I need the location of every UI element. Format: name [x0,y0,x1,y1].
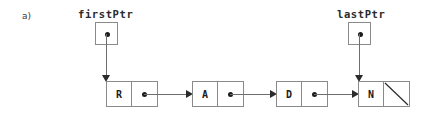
figure-part-label: a) [22,11,31,21]
connector-line-firstptr [106,34,107,79]
connector-line-a-to-d [230,94,274,95]
list-node-n: N [358,81,410,107]
connector-line-lastptr [359,34,360,79]
connector-line-r-to-a [144,94,190,95]
null-pointer-slash-icon [384,82,409,106]
node-data-cell: N [359,82,384,106]
pointer-label-firstptr: firstPtr [78,8,133,20]
node-link-cell-null [384,82,409,106]
node-data-cell: A [193,82,218,106]
connector-line-d-to-n [314,94,356,95]
pointer-label-lastptr: lastPtr [337,8,385,20]
node-data-cell: R [107,82,132,106]
node-data-cell: D [277,82,302,106]
linked-list-diagram: a) firstPtr R A D lastPtr [0,0,429,134]
